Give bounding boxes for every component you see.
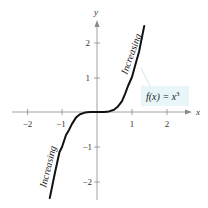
x-tick-label: −2 [23,119,33,129]
x-axis-arrow-icon [185,110,192,115]
y-tick-label: 2 [86,38,91,48]
label-leader-line [141,68,150,86]
y-axis-arrow-icon [95,20,100,27]
increasing-label-right: Increasing [118,32,143,77]
y-tick-label: −1 [82,142,92,152]
x-tick-label: 1 [130,119,135,129]
cubic-function-chart: −2 −1 1 2 2 1 −1 −2 x y Increasing Incre… [0,0,208,208]
y-tick-label: 1 [86,73,91,83]
increasing-label-left: Increasing [37,145,58,190]
y-tick-label: −2 [82,177,92,187]
x-axis-label: x [195,107,200,117]
x-tick-label: 2 [165,119,170,129]
x-tick-label: −1 [56,119,66,129]
y-axis-label: y [93,7,98,17]
function-label: f(x) = x3 [146,90,180,103]
